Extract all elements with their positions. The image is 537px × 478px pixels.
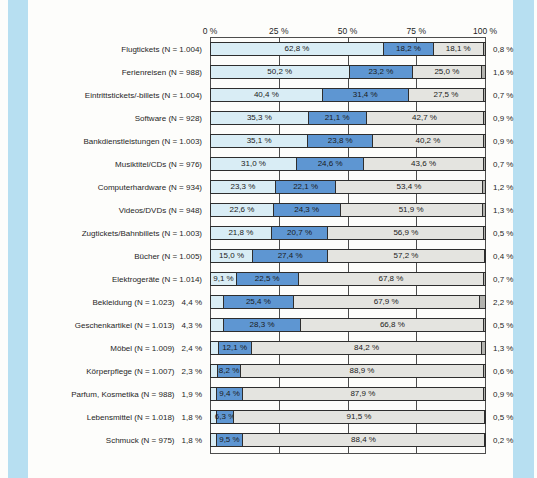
segment-value-label: 23,8 %	[328, 137, 353, 145]
segment-value-label: 23,2 %	[368, 68, 393, 76]
segment-value-label: 25,4 %	[246, 298, 271, 306]
bar-segment-3: 27,5 %	[408, 89, 483, 101]
segment-value-label: 9,1 %	[213, 275, 233, 283]
bar-segment-4	[483, 135, 485, 147]
bar-segment-2: 6,3 %	[216, 411, 233, 423]
bar-segment-2: 12,1 %	[218, 342, 251, 354]
segment-value-label: 51,9 %	[399, 206, 424, 214]
outside-right-value-label: 1,6 %	[493, 65, 513, 79]
segment-value-label: 24,3 %	[294, 206, 319, 214]
segment-value-label: 22,5 %	[255, 275, 280, 283]
segment-value-label: 56,9 %	[393, 229, 418, 237]
category-label: Elektrogeräte (N = 1.014)	[112, 275, 202, 284]
category-label-group: Bankdienstleistungen (N = 1.003)	[0, 134, 202, 148]
segment-value-label: 12,1 %	[222, 344, 247, 352]
category-label-group: Schmuck (N = 975)1,8 %	[0, 433, 202, 447]
bar-segment-4	[482, 181, 485, 193]
bar-segment-3: 40,2 %	[372, 135, 482, 147]
segment-value-label: 9,5 %	[219, 436, 239, 444]
bar-row: 12,1 %84,2 %	[210, 341, 486, 355]
category-label-group: Musiktitel/CDs (N = 976)	[0, 157, 202, 171]
bar-row: 28,3 %66,8 %	[210, 318, 486, 332]
segment-value-label: 22,6 %	[230, 206, 255, 214]
outside-right-value-label: 0,9 %	[493, 387, 513, 401]
bar-segment-1: 40,4 %	[211, 89, 322, 101]
category-label: Möbel (N = 1.009)	[110, 344, 174, 353]
outside-right-value-label: 1,3 %	[493, 203, 513, 217]
segment-value-label: 31,4 %	[353, 91, 378, 99]
category-label: Computerhardware (N = 934)	[98, 183, 202, 192]
outside-left-value-label: 1,8 %	[182, 436, 202, 445]
bar-row: 50,2 %23,2 %25,0 %	[210, 65, 486, 79]
bar-row: 23,3 %22,1 %53,4 %	[210, 180, 486, 194]
bar-segment-4	[479, 296, 485, 308]
bar-segment-4	[484, 434, 485, 446]
category-label-group: Software (N = 928)	[0, 111, 202, 125]
outside-left-value-label: 4,4 %	[182, 298, 202, 307]
bar-segment-4	[484, 250, 485, 262]
bar-segment-2: 24,3 %	[273, 204, 340, 216]
bar-row: 15,0 %27,4 %57,2 %	[210, 249, 486, 263]
bar-segment-2: 27,4 %	[252, 250, 327, 262]
segment-value-label: 67,8 %	[378, 275, 403, 283]
category-label-group: Bücher (N = 1.005)	[0, 249, 202, 263]
bar-segment-4	[483, 273, 485, 285]
bar-segment-2: 23,2 %	[349, 66, 413, 78]
bar-segment-3: 57,2 %	[327, 250, 484, 262]
bar-segment-1: 9,1 %	[211, 273, 236, 285]
outside-right-value-label: 0,2 %	[493, 433, 513, 447]
bar-segment-3: 84,2 %	[251, 342, 482, 354]
bar-segment-3: 43,6 %	[363, 158, 482, 170]
segment-value-label: 25,0 %	[434, 68, 459, 76]
outside-right-value-label: 0,5 %	[493, 318, 513, 332]
bar-segment-3: 88,4 %	[242, 434, 484, 446]
bar-segment-3: 25,0 %	[412, 66, 481, 78]
bar-row: 35,1 %23,8 %40,2 %	[210, 134, 486, 148]
segment-value-label: 15,0 %	[219, 252, 244, 260]
segment-value-label: 53,4 %	[397, 183, 422, 191]
segment-value-label: 9,4 %	[219, 390, 239, 398]
category-label: Ferienreisen (N = 988)	[122, 68, 202, 77]
bar-segment-4	[483, 89, 485, 101]
segment-value-label: 67,9 %	[374, 298, 399, 306]
segment-value-label: 21,1 %	[325, 114, 350, 122]
outside-right-value-label: 1,3 %	[493, 341, 513, 355]
bar-segment-4	[482, 204, 485, 216]
bar-segment-1	[211, 296, 223, 308]
category-label-group: Geschenkartikel (N = 1.013)4,3 %	[0, 318, 202, 332]
segment-value-label: 42,7 %	[412, 114, 437, 122]
segment-value-label: 24,6 %	[318, 160, 343, 168]
category-label-group: Lebensmittel (N = 1.018)1,8 %	[0, 410, 202, 424]
bar-segment-3: 56,9 %	[327, 227, 483, 239]
category-label: Musiktitel/CDs (N = 976)	[115, 160, 202, 169]
bar-segment-1: 23,3 %	[211, 181, 275, 193]
bar-segment-3: 88,9 %	[240, 365, 484, 377]
outside-right-value-label: 2,2 %	[493, 295, 513, 309]
category-label: Körperpflege (N = 1.007)	[86, 367, 174, 376]
bar-segment-3: 42,7 %	[366, 112, 483, 124]
bar-segment-2: 22,1 %	[275, 181, 336, 193]
bar-row: 8,2 %88,9 %	[210, 364, 486, 378]
bar-segment-4	[483, 158, 485, 170]
outside-right-value-label: 0,7 %	[493, 272, 513, 286]
x-axis-tick-label: 50 %	[338, 26, 357, 36]
segment-value-label: 84,2 %	[354, 344, 379, 352]
bar-segment-3: 91,5 %	[233, 411, 484, 423]
plot-bottom-border	[210, 453, 486, 454]
segment-value-label: 91,5 %	[347, 413, 372, 421]
bar-segment-2: 28,3 %	[223, 319, 301, 331]
bar-row: 21,8 %20,7 %56,9 %	[210, 226, 486, 240]
segment-value-label: 28,3 %	[250, 321, 275, 329]
bar-segment-1: 50,2 %	[211, 66, 349, 78]
right-margin-strip	[513, 0, 534, 478]
bar-segment-2: 31,4 %	[322, 89, 408, 101]
bar-row: 9,1 %22,5 %67,8 %	[210, 272, 486, 286]
bar-segment-3: 87,9 %	[242, 388, 483, 400]
outside-right-value-label: 0,5 %	[493, 410, 513, 424]
segment-value-label: 35,3 %	[247, 114, 272, 122]
bar-row: 35,3 %21,1 %42,7 %	[210, 111, 486, 125]
segment-value-label: 8,2 %	[219, 367, 239, 375]
bar-segment-4	[484, 411, 485, 423]
bar-segment-1: 35,3 %	[211, 112, 308, 124]
bar-segment-2: 8,2 %	[217, 365, 239, 377]
